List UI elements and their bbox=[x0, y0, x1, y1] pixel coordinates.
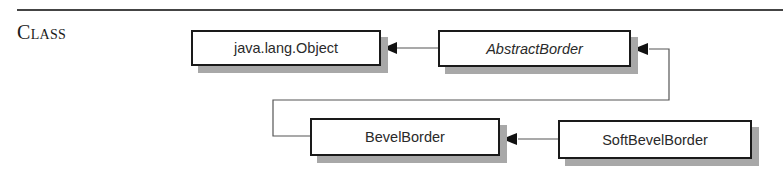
class-box-bevel-border[interactable]: BevelBorder bbox=[310, 118, 500, 156]
arrowhead-icon bbox=[502, 133, 517, 145]
class-box-soft-bevel-border[interactable]: SoftBevelBorder bbox=[558, 120, 752, 159]
class-name: BevelBorder bbox=[365, 129, 445, 145]
class-name: java.lang.Object bbox=[234, 40, 338, 56]
class-box-abstract-border[interactable]: AbstractBorder bbox=[438, 30, 631, 67]
arrowhead-icon bbox=[633, 43, 648, 55]
arrowhead-icon bbox=[383, 42, 397, 54]
class-box-object[interactable]: java.lang.Object bbox=[191, 30, 381, 66]
class-name: SoftBevelBorder bbox=[602, 132, 708, 148]
class-name: AbstractBorder bbox=[486, 41, 583, 57]
